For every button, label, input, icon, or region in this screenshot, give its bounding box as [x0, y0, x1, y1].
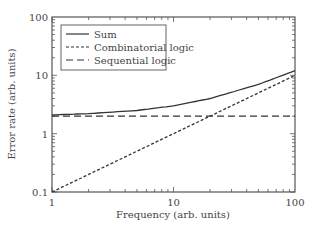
- x-tick-label: 100: [285, 197, 304, 208]
- x-axis-title: Frequency (arb. units): [116, 209, 230, 220]
- y-tick-label: 10: [35, 70, 48, 81]
- legend-label: Sequential logic: [94, 55, 176, 66]
- y-tick-label: 1: [42, 129, 48, 140]
- data-lines: [52, 71, 295, 192]
- x-tick-label: 1: [49, 197, 55, 208]
- y-tick-label: 0.1: [32, 187, 48, 198]
- series-line-combinatorial-logic: [52, 75, 295, 192]
- y-axis-title: Error rate (arb. units): [6, 48, 17, 159]
- x-tick-label: 10: [167, 197, 180, 208]
- legend: SumCombinatorial logicSequential logic: [61, 25, 194, 70]
- series-line-sum: [52, 71, 295, 115]
- legend-label: Combinatorial logic: [94, 42, 194, 53]
- error-rate-chart: 1101000.1110100 SumCombinatorial logicSe…: [0, 0, 314, 233]
- y-tick-label: 100: [29, 12, 48, 23]
- legend-label: Sum: [94, 29, 117, 40]
